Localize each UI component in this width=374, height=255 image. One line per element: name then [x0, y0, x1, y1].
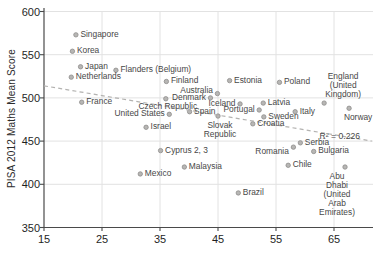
- data-point-bulgaria: [312, 149, 316, 153]
- data-point-estonia: [227, 78, 231, 82]
- point-label-denmark: Denmark: [172, 93, 206, 102]
- y-tick-label-600: 600: [12, 6, 40, 18]
- data-point-korea: [70, 49, 74, 53]
- point-label-portugal: Portugal: [223, 105, 254, 114]
- pisa-scatter-chart: PISA 2012 Maths Mean Score 3504004505005…: [0, 0, 374, 255]
- point-label-estonia: Estonia: [234, 76, 262, 85]
- point-label-poland: Poland: [284, 78, 310, 87]
- data-point-brazil: [236, 191, 240, 195]
- point-label-mexico: Mexico: [145, 169, 172, 178]
- point-label-abu-dhabi-uae: Abu Dhabi (United Arab Emirates): [319, 172, 356, 217]
- data-point-england-uk: [322, 101, 326, 105]
- point-label-norway: Norway: [344, 113, 372, 122]
- point-label-japan: Japan: [85, 62, 108, 71]
- x-tick-label-65: 65: [328, 233, 340, 245]
- point-label-italy: Italy: [300, 107, 315, 116]
- data-point-france: [80, 100, 84, 104]
- point-label-flanders-belgium: Flanders (Belgium): [120, 66, 191, 75]
- data-point-latvia: [261, 101, 265, 105]
- point-label-spain: Spain: [194, 107, 215, 116]
- data-point-singapore: [74, 33, 78, 37]
- point-label-france: France: [86, 98, 112, 107]
- point-label-bulgaria: Bulgaria: [318, 147, 349, 156]
- data-point-australia: [215, 91, 219, 95]
- point-label-korea: Korea: [77, 47, 99, 56]
- point-label-cyprus: Cyprus 2, 3: [165, 146, 208, 155]
- y-tick-label-500: 500: [12, 92, 40, 104]
- data-point-malaysia: [182, 165, 186, 169]
- data-point-romania: [291, 145, 295, 149]
- x-tick-label-35: 35: [154, 233, 166, 245]
- data-point-norway: [347, 106, 351, 110]
- point-label-netherlands: Netherlands: [76, 73, 121, 82]
- x-tick-label-45: 45: [212, 233, 224, 245]
- x-tick-label-55: 55: [270, 233, 282, 245]
- point-label-england-uk: England (United Kingdom): [325, 71, 361, 98]
- data-point-cyprus: [158, 148, 162, 152]
- point-label-israel: Israel: [151, 123, 171, 132]
- x-tick-label-25: 25: [96, 233, 108, 245]
- y-tick-label-400: 400: [12, 178, 40, 190]
- point-label-slovak-republic: Slovak Republic: [204, 121, 237, 139]
- point-label-croatia: Croatia: [257, 119, 284, 128]
- data-point-netherlands: [69, 75, 73, 79]
- data-point-poland: [277, 80, 281, 84]
- data-point-abu-dhabi-uae: [343, 165, 347, 169]
- point-label-malaysia: Malaysia: [189, 162, 222, 171]
- y-tick-label-350: 350: [12, 222, 40, 234]
- point-label-romania: Romania: [255, 148, 289, 157]
- data-point-serbia: [298, 141, 302, 145]
- data-point-united-states: [167, 112, 171, 116]
- data-point-finland: [164, 79, 168, 83]
- y-tick-label-450: 450: [12, 135, 40, 147]
- data-point-croatia: [251, 122, 255, 126]
- data-point-mexico: [138, 172, 142, 176]
- r-squared-annotation: R² = 0.226: [320, 131, 360, 141]
- point-label-chile: Chile: [293, 161, 312, 170]
- y-tick-label-550: 550: [12, 49, 40, 61]
- data-point-chile: [286, 163, 290, 167]
- data-point-israel: [144, 125, 148, 129]
- point-label-brazil: Brazil: [243, 188, 264, 197]
- point-label-singapore: Singapore: [80, 30, 118, 39]
- data-point-japan: [78, 65, 82, 69]
- point-label-latvia: Latvia: [268, 99, 290, 108]
- data-point-portugal: [257, 108, 261, 112]
- point-label-united-states: United States: [114, 110, 164, 119]
- x-tick-label-15: 15: [38, 233, 50, 245]
